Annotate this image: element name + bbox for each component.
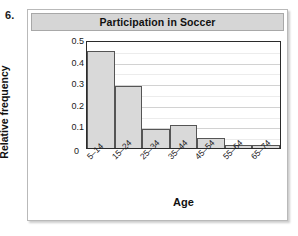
y-axis-zero-label: 0 bbox=[74, 146, 79, 156]
x-axis-label: Age bbox=[86, 196, 281, 208]
y-axis-tick-labels: 0.50.40.30.20.1 bbox=[56, 41, 84, 149]
x-axis-tick-slot: 25–34 bbox=[142, 150, 170, 184]
y-axis-tick: 0.2 bbox=[58, 102, 84, 111]
chart-card: Participation in Soccer Relative frequen… bbox=[27, 9, 288, 221]
bar bbox=[87, 51, 115, 148]
chart-title: Participation in Soccer bbox=[99, 16, 215, 28]
chart-title-bar: Participation in Soccer bbox=[31, 13, 284, 31]
bar-series bbox=[87, 42, 280, 148]
y-axis-label: Relative frequency bbox=[0, 62, 10, 162]
y-axis-tick: 0.4 bbox=[58, 59, 84, 68]
y-axis-tick: 0.5 bbox=[58, 37, 84, 46]
exercise-number: 6. bbox=[5, 9, 15, 21]
y-axis-tick: 0.1 bbox=[58, 123, 84, 132]
y-axis-tick: 0.3 bbox=[58, 80, 84, 89]
x-axis-tick-slot: 65–74 bbox=[253, 150, 281, 184]
x-axis-tick-labels: 5–1415–2425–3435–4445–5455–6465–74 bbox=[86, 150, 281, 184]
plot-area bbox=[86, 41, 281, 149]
